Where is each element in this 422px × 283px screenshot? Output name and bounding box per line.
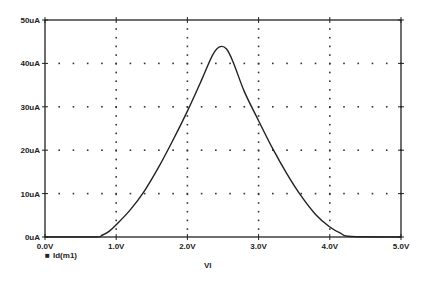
x-tick-label: 4.0V (322, 242, 339, 251)
x-axis-label: Vl (204, 261, 212, 270)
y-tick-label: 40uA (20, 59, 40, 68)
x-tick-label: 5.0V (393, 242, 410, 251)
x-tick-label: 1.0V (108, 242, 125, 251)
grid (58, 28, 401, 230)
x-axis-ticks: 0.0V1.0V2.0V3.0V4.0V5.0V (37, 17, 410, 251)
legend-label: Id(m1) (53, 251, 77, 260)
series-id-m1 (45, 46, 401, 237)
y-tick-label: 20uA (20, 146, 40, 155)
y-tick-label: 10uA (20, 190, 40, 199)
x-tick-label: 0.0V (37, 242, 54, 251)
legend-marker: ■ (45, 251, 50, 260)
y-tick-label: 0uA (25, 233, 40, 242)
legend: ■ Id(m1) (45, 251, 77, 260)
x-tick-label: 3.0V (250, 242, 267, 251)
y-axis-ticks: 0uA10uA20uA30uA40uA50uA (20, 16, 404, 242)
x-tick-label: 2.0V (179, 242, 196, 251)
y-tick-label: 50uA (20, 16, 40, 25)
axes (45, 20, 401, 237)
y-tick-label: 30uA (20, 103, 40, 112)
line-chart: 0.0V1.0V2.0V3.0V4.0V5.0V 0uA10uA20uA30uA… (0, 0, 422, 283)
